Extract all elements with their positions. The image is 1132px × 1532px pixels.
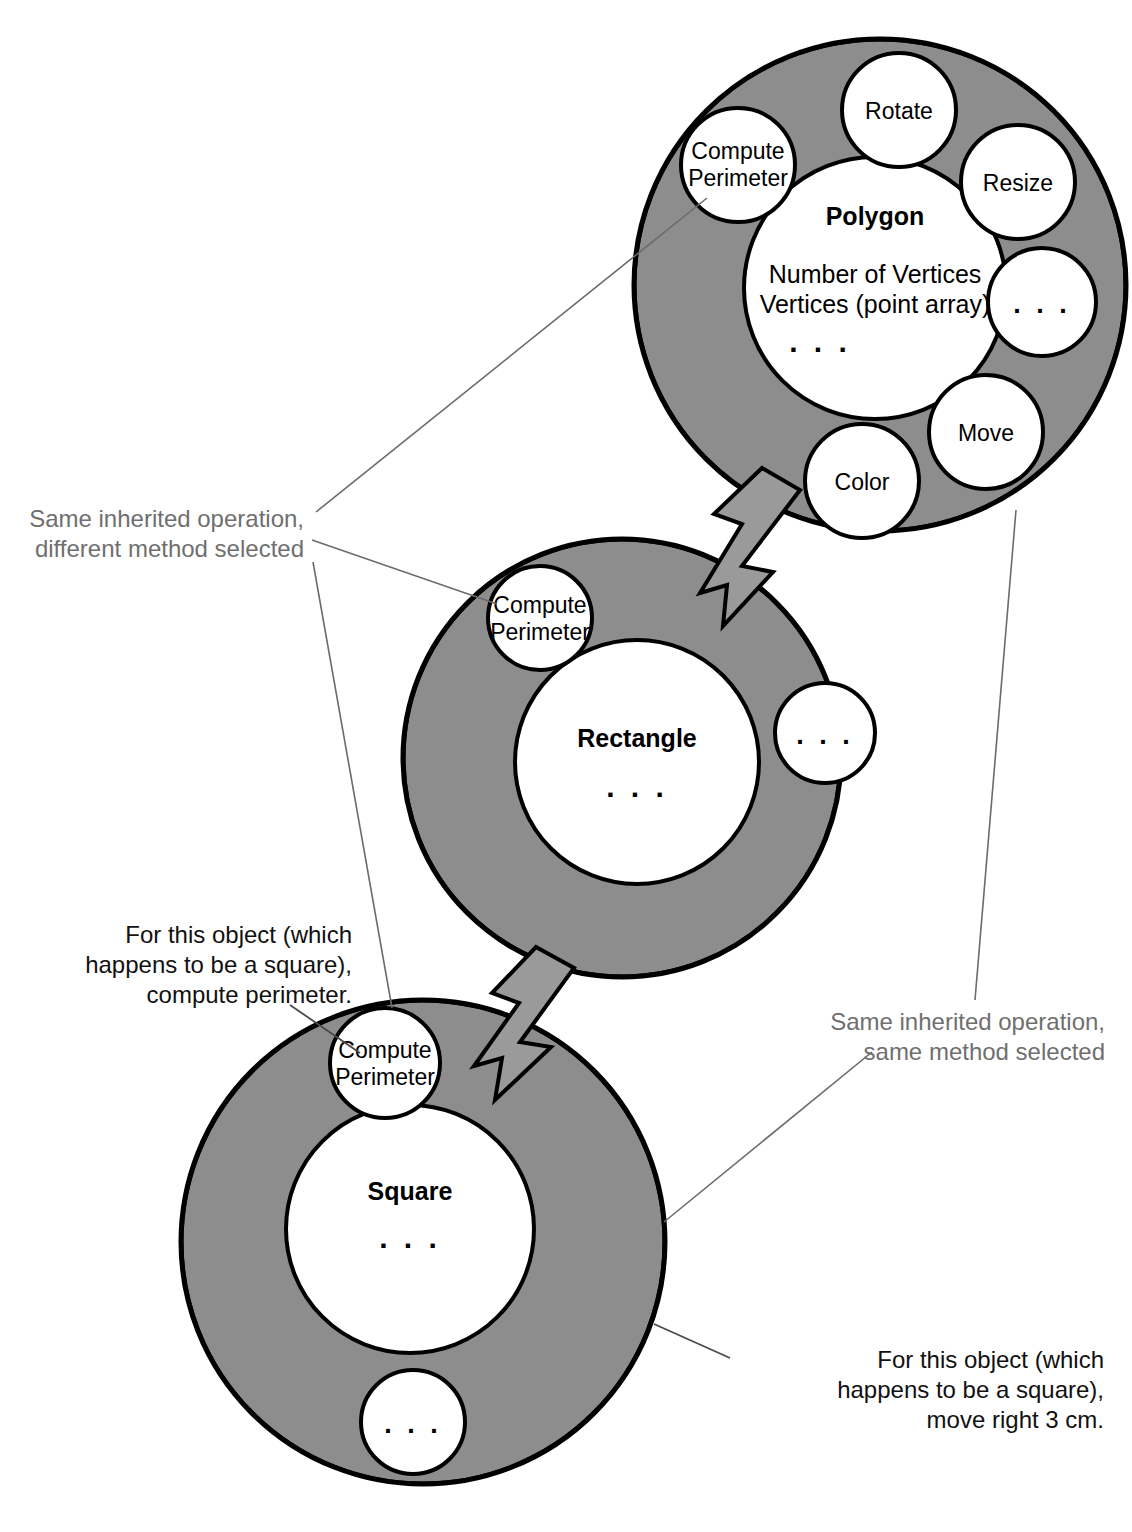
operation-bubble-color[interactable]: Color <box>805 424 919 538</box>
operation-label-line2: Perimeter <box>490 619 590 645</box>
annotation-line-2: different method selected <box>35 535 304 562</box>
operation-label-line1: Move <box>958 420 1014 446</box>
operation-label-line2: Perimeter <box>688 165 788 191</box>
annotation-line-1: For this object (which <box>877 1346 1104 1373</box>
square-class-name: Square <box>368 1177 453 1205</box>
bubble-circle <box>488 566 592 670</box>
operation-bubble-more-rectangle[interactable]: . . . <box>775 683 875 783</box>
annotation-line-2: same method selected <box>864 1038 1105 1065</box>
annotation-same-op-diff-method: Same inherited operation, different meth… <box>29 505 304 562</box>
operation-label-line1: Compute <box>691 138 784 164</box>
operation-label-line1: Rotate <box>865 98 933 124</box>
operation-label-line1: . . . <box>796 720 854 750</box>
annotation-line-2: happens to be a square), <box>837 1376 1104 1403</box>
annotation-line-1: Same inherited operation, <box>830 1008 1105 1035</box>
annotation-line-3: move right 3 cm. <box>927 1406 1104 1433</box>
inheritance-polymorphism-diagram: Polygon Number of Vertices Vertices (poi… <box>0 0 1132 1532</box>
annotation-same-op-same-method: Same inherited operation, same method se… <box>830 1008 1105 1065</box>
operation-bubble-compute-perimeter-rectangle[interactable]: Compute Perimeter <box>488 566 592 670</box>
annotation-compute-perimeter-message: For this object (which happens to be a s… <box>85 921 352 1008</box>
operation-label-line2: Perimeter <box>335 1064 435 1090</box>
polygon-attribute-0: Number of Vertices <box>769 260 982 288</box>
square-attributes-ellipsis: . . . <box>379 1221 441 1254</box>
operation-bubble-resize[interactable]: Resize <box>961 125 1075 239</box>
leader-line-to-rectangle-compute-perimeter <box>312 540 497 604</box>
rectangle-class-name: Rectangle <box>577 724 697 752</box>
bubble-circle <box>330 1008 440 1118</box>
annotation-line-2: happens to be a square), <box>85 951 352 978</box>
polygon-class-name: Polygon <box>826 202 925 230</box>
leader-line-to-polygon-move <box>975 510 1016 1000</box>
leader-line-move-message <box>654 1324 730 1358</box>
polygon-attributes-ellipsis: . . . <box>789 325 851 358</box>
operation-label-line1: Compute <box>338 1037 431 1063</box>
operation-label-line1: Resize <box>983 170 1053 196</box>
operation-label-line1: Color <box>835 469 890 495</box>
operation-label-line1: . . . <box>1013 289 1071 319</box>
operation-bubble-more-square[interactable]: . . . <box>361 1370 465 1474</box>
polygon-attribute-1: Vertices (point array) <box>760 290 991 318</box>
operation-bubble-rotate[interactable]: Rotate <box>842 53 956 167</box>
annotation-move-message: For this object (which happens to be a s… <box>837 1346 1104 1433</box>
operation-label-line1: . . . <box>384 1409 442 1439</box>
annotation-line-1: Same inherited operation, <box>29 505 304 532</box>
leader-line-to-square-node <box>664 1052 872 1222</box>
annotation-line-1: For this object (which <box>125 921 352 948</box>
rectangle-attributes-ellipsis: . . . <box>606 770 668 803</box>
annotation-line-3: compute perimeter. <box>147 981 352 1008</box>
operation-bubble-move[interactable]: Move <box>929 375 1043 489</box>
rectangle-core <box>515 640 759 884</box>
operation-bubble-compute-perimeter-square[interactable]: Compute Perimeter <box>330 1008 440 1118</box>
operation-bubble-more-polygon[interactable]: . . . <box>988 248 1096 356</box>
class-node-square[interactable]: Square . . . Compute Perimeter . . . <box>181 1000 665 1484</box>
class-node-rectangle[interactable]: Rectangle . . . Compute Perimeter . . . <box>403 539 875 977</box>
class-node-polygon[interactable]: Polygon Number of Vertices Vertices (poi… <box>634 39 1126 538</box>
operation-label-line1: Compute <box>493 592 586 618</box>
